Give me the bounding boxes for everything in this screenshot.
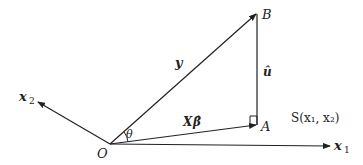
point-a-label: A xyxy=(260,119,270,134)
fitted-vector-label: X β̂ xyxy=(182,115,201,129)
x2-label: x xyxy=(18,89,27,104)
x2-axis-label: x 2 xyxy=(18,89,35,106)
diagram-svg: B A O y û θ X β̂ x 2 x 1 S(x₁, x₂) xyxy=(0,0,363,165)
point-b-label: B xyxy=(261,7,272,22)
x1-label: x xyxy=(333,138,342,153)
y-vector-label: y xyxy=(174,55,184,70)
fitted-beta-label: β̂ xyxy=(192,115,201,129)
x1-axis-arrow xyxy=(110,144,330,146)
right-angle-marker xyxy=(250,116,257,125)
fitted-x-label: X xyxy=(182,115,193,129)
theta-label: θ xyxy=(126,128,133,141)
residual-label: û xyxy=(263,65,272,79)
projection-diagram: B A O y û θ X β̂ x 2 x 1 S(x₁, x₂) xyxy=(0,0,363,165)
point-o-label: O xyxy=(97,146,108,161)
subspace-label: S(x₁, x₂) xyxy=(291,111,339,125)
x1-axis-label: x 1 xyxy=(333,138,350,155)
x2-subscript: 2 xyxy=(29,96,35,106)
x2-axis-arrow xyxy=(38,102,110,144)
x1-subscript: 1 xyxy=(344,145,350,155)
